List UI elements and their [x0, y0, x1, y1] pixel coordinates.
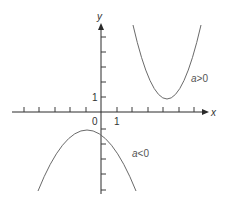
y-axis-label: y	[96, 11, 103, 22]
y-axis	[98, 23, 106, 194]
parabola-diagram: x y 0 1 1 a>0 a<0	[0, 0, 227, 211]
upward-parabola-label: a>0	[191, 73, 208, 84]
origin-label: 0	[92, 116, 98, 127]
upward-parabola	[133, 25, 201, 99]
x-axis-label: x	[210, 107, 217, 118]
x-axis	[12, 107, 209, 115]
y-unit-label: 1	[92, 92, 98, 103]
diagram-canvas: x y 0 1 1 a>0 a<0	[0, 0, 227, 211]
downward-parabola	[38, 130, 136, 191]
y-axis-arrow-icon	[98, 23, 104, 30]
x-axis-arrow-icon	[202, 109, 209, 115]
downward-parabola-label: a<0	[132, 148, 149, 159]
x-unit-label: 1	[114, 116, 120, 127]
